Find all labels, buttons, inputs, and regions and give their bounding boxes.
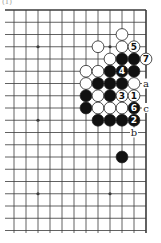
go-board-diagram: acb 5743162 xyxy=(0,0,161,243)
stone-disc xyxy=(80,90,92,102)
stone-disc xyxy=(104,114,116,126)
stone-disc xyxy=(116,151,128,163)
white-stone xyxy=(92,90,104,102)
white-stone xyxy=(92,41,104,53)
stone-disc xyxy=(116,114,128,126)
letter-mark-text: c xyxy=(143,103,149,114)
black-stone xyxy=(104,90,116,102)
stone-disc xyxy=(104,65,116,77)
letter-mark-text: a xyxy=(143,78,149,89)
stone-disc xyxy=(80,65,92,77)
star-point xyxy=(36,119,39,122)
black-stone xyxy=(116,114,128,126)
stone-disc xyxy=(80,102,92,114)
black-stone xyxy=(80,102,92,114)
letter-mark-a: a xyxy=(142,78,150,89)
move-number: 7 xyxy=(143,54,149,64)
move-number: 1 xyxy=(131,91,137,101)
white-stone xyxy=(92,65,104,77)
star-point xyxy=(36,192,39,195)
white-stone-1: 1 xyxy=(128,90,140,102)
stone-disc xyxy=(92,78,104,90)
black-stone-6: 6 xyxy=(128,102,140,114)
white-stone xyxy=(116,29,128,41)
white-stone xyxy=(80,65,92,77)
black-stone xyxy=(104,114,116,126)
black-stone-4: 4 xyxy=(116,65,128,77)
move-number: 4 xyxy=(119,66,125,76)
black-stone xyxy=(80,90,92,102)
white-stone xyxy=(92,102,104,114)
letter-mark-b: b xyxy=(130,127,138,138)
star-point xyxy=(108,45,111,48)
stone-disc xyxy=(128,53,140,65)
white-stone xyxy=(128,78,140,90)
letter-mark-c: c xyxy=(142,103,150,114)
stone-disc xyxy=(80,78,92,90)
black-stone xyxy=(104,78,116,90)
white-stone xyxy=(116,102,128,114)
move-number: 3 xyxy=(119,91,125,101)
stone-disc xyxy=(104,78,116,90)
black-stone-2: 2 xyxy=(128,114,140,126)
white-stone-3: 3 xyxy=(116,90,128,102)
stone-disc xyxy=(92,114,104,126)
stone-disc xyxy=(104,53,116,65)
black-stone xyxy=(128,65,140,77)
star-point xyxy=(108,192,111,195)
stone-disc xyxy=(92,90,104,102)
stone-disc xyxy=(116,29,128,41)
stone-disc xyxy=(92,102,104,114)
white-stone xyxy=(80,78,92,90)
black-stone xyxy=(104,65,116,77)
letter-mark-text: b xyxy=(131,127,137,138)
black-stone xyxy=(116,151,128,163)
stone-disc xyxy=(128,65,140,77)
black-stone xyxy=(116,78,128,90)
move-number: 6 xyxy=(131,103,137,113)
white-stone xyxy=(104,53,116,65)
stone-disc xyxy=(116,78,128,90)
white-stone xyxy=(116,41,128,53)
black-stone xyxy=(116,53,128,65)
stone-disc xyxy=(116,41,128,53)
star-point xyxy=(36,45,39,48)
stone-disc xyxy=(104,90,116,102)
white-stone xyxy=(104,102,116,114)
stone-disc xyxy=(116,53,128,65)
move-number: 2 xyxy=(131,115,137,125)
stone-disc xyxy=(128,78,140,90)
white-stone-7: 7 xyxy=(140,53,152,65)
stone-disc xyxy=(92,41,104,53)
black-stone xyxy=(92,78,104,90)
black-stone xyxy=(92,114,104,126)
stone-disc xyxy=(104,102,116,114)
stone-disc xyxy=(92,65,104,77)
white-stone-5: 5 xyxy=(128,41,140,53)
move-number: 5 xyxy=(131,42,137,52)
black-stone xyxy=(128,53,140,65)
stone-disc xyxy=(116,102,128,114)
